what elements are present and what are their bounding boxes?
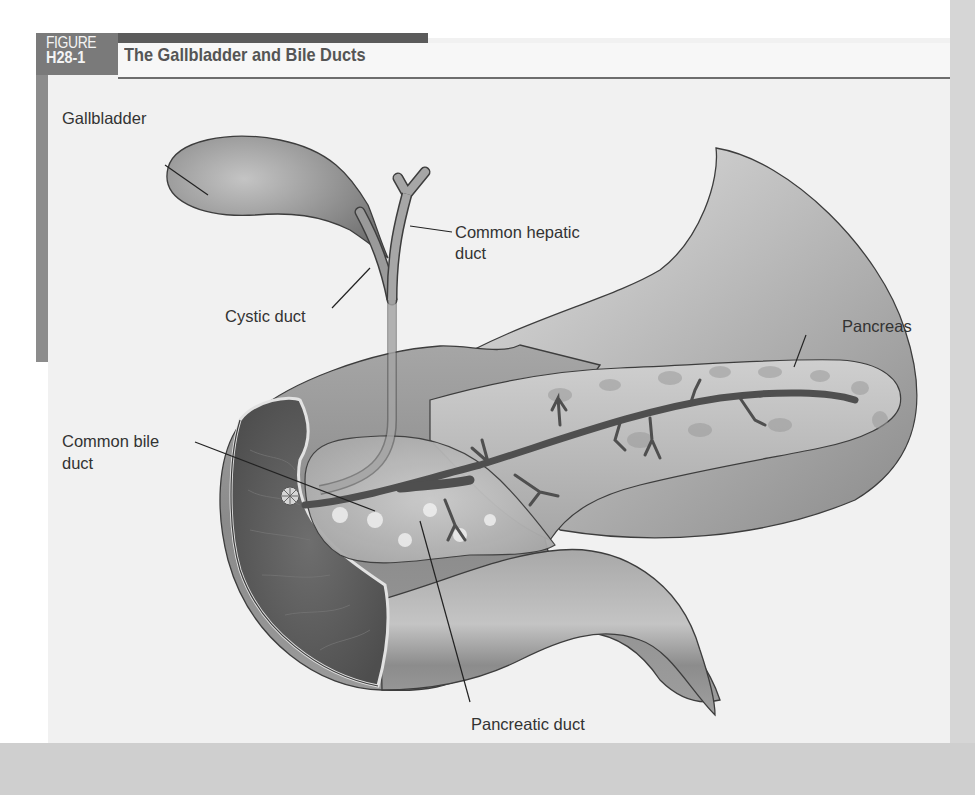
label-common-hepatic-duct-line1: Common hepatic: [455, 222, 580, 243]
figure-page: FIGURE H28-1 The Gallbladder and Bile Du…: [0, 0, 975, 795]
label-common-bile-duct-line2: duct: [62, 453, 93, 474]
label-cystic-duct: Cystic duct: [225, 306, 306, 327]
label-common-bile-duct-line1: Common bile: [62, 431, 159, 452]
label-pancreas: Pancreas: [842, 316, 912, 337]
common-hepatic-duct: [392, 172, 425, 300]
label-common-hepatic-duct-line2: duct: [455, 243, 486, 264]
papilla-icon: [281, 487, 299, 505]
gallbladder-shape: [167, 136, 388, 258]
label-pancreatic-duct: Pancreatic duct: [471, 714, 585, 735]
label-gallbladder: Gallbladder: [62, 108, 146, 129]
